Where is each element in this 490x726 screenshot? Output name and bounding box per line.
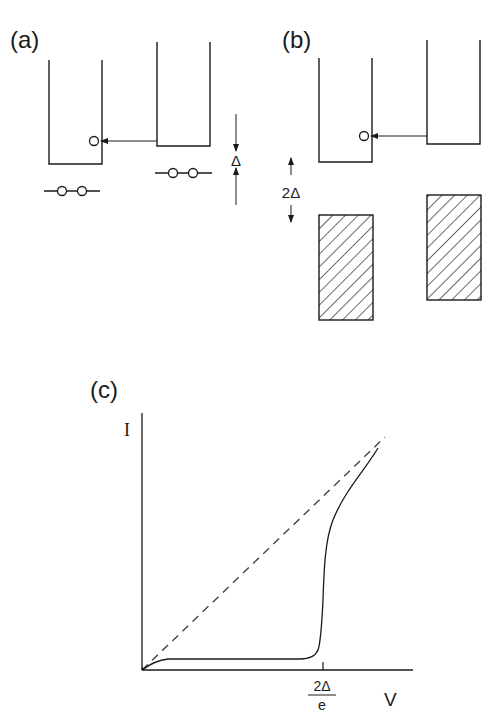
left-electrode-well: [49, 60, 102, 164]
right-filled-band: [427, 195, 481, 300]
figure-canvas: (a) Δ (b): [0, 0, 490, 726]
gap-2delta-arrows: 2Δ: [282, 158, 300, 222]
panel-a: (a) Δ: [10, 26, 241, 205]
right-electrode-well: [157, 42, 210, 146]
panel-a-label: (a): [10, 26, 39, 53]
gap-dimension-arrows: Δ: [231, 114, 241, 205]
tick-numerator: 2Δ: [313, 678, 330, 694]
origin-point: [142, 668, 145, 671]
tick-denominator: e: [318, 697, 326, 713]
right-empty-band: [427, 40, 480, 144]
x-axis-label: V: [384, 689, 397, 710]
electron-icon-b: [360, 132, 369, 141]
cooper-pair-right: [155, 169, 212, 178]
electron-icon: [90, 137, 99, 146]
left-filled-band: [319, 215, 373, 320]
panel-c: (c) I V 2Δ e: [90, 376, 413, 713]
cooper-pair-left: [44, 187, 100, 196]
panel-b: (b) 2Δ: [282, 26, 481, 320]
left-empty-band: [319, 58, 372, 162]
two-delta-label: 2Δ: [282, 184, 300, 201]
gap-voltage-tick-label: 2Δ e: [308, 678, 336, 713]
panel-b-label: (b): [282, 26, 311, 53]
y-axis-label: I: [124, 420, 130, 440]
ohmic-dashed-line: [142, 437, 385, 670]
delta-label: Δ: [231, 152, 241, 169]
panel-c-label: (c): [90, 376, 118, 403]
